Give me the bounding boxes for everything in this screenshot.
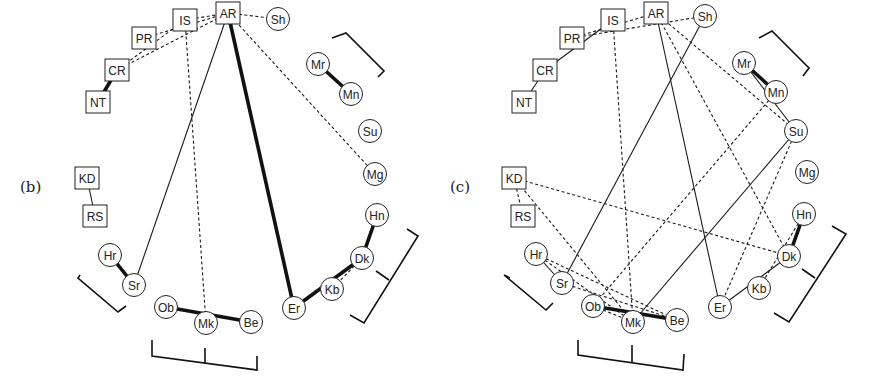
node-label: KD — [79, 172, 96, 186]
bracket-mr-mn — [759, 31, 809, 76]
node-kb: Kb — [321, 278, 344, 301]
node-label: Kb — [325, 283, 340, 297]
node-label: AR — [648, 7, 665, 21]
node-label: NT — [90, 96, 107, 110]
node-label: Dk — [355, 252, 371, 266]
node-label: Er — [288, 302, 300, 316]
node-label: Mg — [367, 168, 384, 182]
node-label: Kb — [752, 282, 767, 296]
node-label: Mg — [799, 166, 816, 180]
node-label: Mk — [625, 316, 642, 330]
node-ar: AR — [216, 2, 240, 24]
network-diagram-canvas: (b) ARISPRCRNTKDRSHrSrObMkBeErKbDkHnMgSu… — [0, 0, 871, 391]
node-ob: Ob — [155, 296, 178, 319]
node-label: Sh — [271, 13, 286, 27]
node-mn: Mn — [340, 83, 363, 106]
edge-ar-er — [228, 13, 294, 308]
node-label: Su — [789, 125, 804, 139]
node-is: IS — [601, 9, 625, 31]
node-dk: Dk — [778, 245, 801, 268]
node-sr: Sr — [551, 272, 574, 295]
node-label: Hr — [530, 248, 543, 262]
node-label: Mr — [311, 58, 325, 72]
edge-mn-ob — [593, 92, 776, 306]
panel-label-b: (b) — [20, 178, 41, 196]
node-ar: AR — [644, 2, 668, 24]
node-label: Mk — [198, 317, 215, 331]
node-be: Be — [666, 309, 689, 332]
node-label: CR — [108, 64, 126, 78]
bracket-hr-sr — [78, 275, 126, 312]
bracket-mr-mn — [332, 33, 384, 77]
node-label: Ob — [585, 300, 601, 314]
edge-ar-dk — [656, 13, 789, 256]
panel-b-nodes: ARISPRCRNTKDRSHrSrObMkBeErKbDkHnMgSuMnMr… — [75, 2, 389, 335]
node-nt: NT — [86, 91, 110, 113]
edge-sh-sr — [562, 16, 705, 283]
panel-c: (c) ARISPRCRNTKDRSHrSrObMkBeErKbDkHnMgSu… — [450, 2, 846, 370]
edge-sr-be — [562, 283, 677, 320]
panel-c-nodes: ARISPRCRNTKDRSHrSrObMkBeErKbDkHnMgSuMnMr… — [502, 2, 819, 334]
bracket-dk-hn-tick — [376, 271, 389, 280]
node-label: PR — [564, 32, 581, 46]
node-sr: Sr — [123, 274, 146, 297]
node-cr: CR — [105, 59, 129, 81]
node-label: Dk — [782, 250, 798, 264]
node-cr: CR — [533, 59, 557, 81]
node-mr: Mr — [307, 53, 330, 76]
node-rs: RS — [511, 205, 535, 227]
node-hn: Hn — [793, 203, 816, 226]
node-er: Er — [283, 297, 306, 320]
node-be: Be — [240, 311, 263, 334]
node-mr: Mr — [733, 52, 756, 75]
edge-is-mk — [185, 20, 206, 323]
node-kb: Kb — [748, 277, 771, 300]
node-label: Mr — [737, 57, 751, 71]
node-kd: KD — [502, 167, 526, 189]
node-hn: Hn — [366, 204, 389, 227]
bracket-ob-mk-be — [578, 340, 684, 370]
node-dk: Dk — [351, 247, 374, 270]
node-hr: Hr — [525, 243, 548, 266]
node-rs: RS — [83, 205, 107, 227]
node-pr: PR — [560, 27, 584, 49]
node-label: RS — [515, 210, 532, 224]
node-label: IS — [179, 14, 190, 28]
edge-ar-su — [656, 13, 796, 131]
node-label: Be — [670, 314, 685, 328]
node-nt: NT — [512, 91, 536, 113]
node-mg: Mg — [796, 161, 819, 184]
node-su: Su — [359, 120, 382, 143]
node-label: Sr — [128, 279, 140, 293]
node-label: Su — [363, 125, 378, 139]
node-label: Ob — [158, 301, 174, 315]
node-label: Sh — [698, 10, 713, 24]
panel-label-c: (c) — [450, 178, 470, 196]
node-mg: Mg — [364, 163, 387, 186]
node-label: Mn — [343, 88, 360, 102]
node-kd: KD — [75, 167, 99, 189]
node-su: Su — [785, 120, 808, 143]
node-label: Er — [714, 301, 726, 315]
bracket-dk-hn-tick — [802, 269, 815, 278]
node-label: Hn — [369, 209, 384, 223]
panel-b: (b) ARISPRCRNTKDRSHrSrObMkBeErKbDkHnMgSu… — [20, 2, 418, 370]
node-label: Hr — [104, 249, 117, 263]
node-mk: Mk — [622, 311, 645, 334]
node-is: IS — [173, 9, 197, 31]
edge-pr-sh — [572, 16, 705, 38]
node-label: CR — [536, 64, 554, 78]
node-sh: Sh — [694, 5, 717, 28]
node-label: Mn — [768, 86, 785, 100]
edge-ar-er — [656, 13, 720, 307]
node-label: Hn — [796, 208, 811, 222]
node-label: PR — [136, 32, 153, 46]
node-label: KD — [506, 172, 523, 186]
node-mn: Mn — [765, 81, 788, 104]
node-ob: Ob — [582, 295, 605, 318]
edge-is-mk — [613, 20, 633, 322]
node-pr: PR — [132, 27, 156, 49]
edge-su-mk — [633, 131, 796, 322]
node-label: IS — [607, 14, 618, 28]
node-sh: Sh — [267, 8, 290, 31]
